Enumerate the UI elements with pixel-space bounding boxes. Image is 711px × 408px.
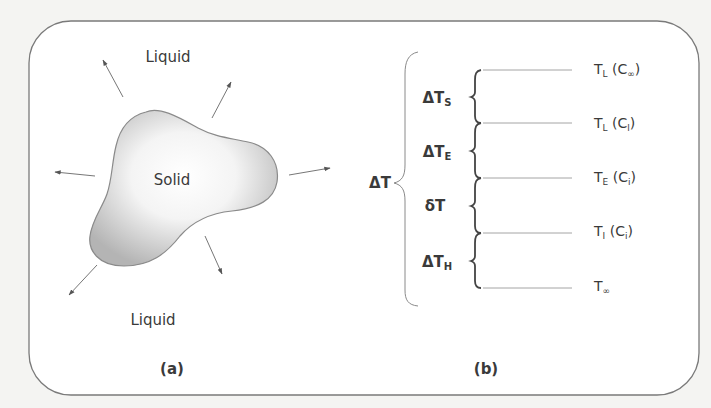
thermal-undercooling-label: ΔTH: [422, 253, 452, 272]
level-label-far-field: T∞: [594, 278, 610, 296]
liquid-label-bottom: Liquid: [130, 311, 175, 329]
solutal-undercooling-label: ΔTS: [422, 89, 451, 108]
level-label-liquidus-c-inf: TL (C∞): [594, 61, 640, 79]
caption-a: (a): [160, 360, 184, 378]
eutectic-undercooling-label: ΔTE: [423, 143, 452, 162]
level-label-interface-c-i: TI (Ci): [594, 223, 633, 241]
level-label-liquidus-c-l: TL (Cl): [594, 115, 635, 133]
solid-label: Solid: [154, 171, 191, 189]
liquid-label-top: Liquid: [145, 48, 190, 66]
level-label-equilibrium-c-i: TE (Ci): [594, 169, 636, 187]
kinetic-undercooling-label: δT: [425, 197, 446, 216]
caption-b: (b): [474, 360, 498, 378]
total-undercooling-label: ΔT: [369, 174, 391, 192]
figure: Liquid Solid Liquid (a) (b) ΔT ΔTS ΔTE δ…: [0, 0, 711, 408]
